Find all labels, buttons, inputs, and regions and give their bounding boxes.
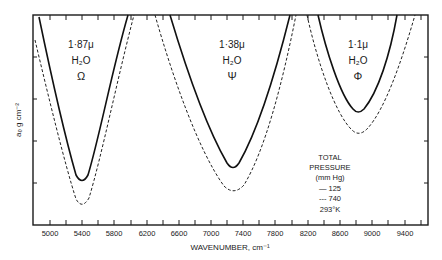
x-tick-label: 9400 [397, 229, 414, 238]
band-phi-wavelength: 1·1μ [348, 39, 368, 50]
absorption-chart: 1·87μ H₂O Ω 1·38μ H₂O Ψ 1·1μ H₂O Φ TOTAL… [0, 0, 442, 260]
legend-temperature: 293°K [320, 205, 341, 214]
band-omega-wavelength: 1·87μ [68, 39, 94, 50]
band-phi-symbol: Φ [354, 70, 363, 82]
legend: TOTAL PRESSURE (mm Hg) — 125 --- 740 293… [309, 153, 350, 214]
x-axis-title: WAVENUMBER, cm⁻¹ [190, 243, 269, 252]
legend-title-line1: TOTAL [318, 153, 341, 162]
x-tick-label: 8600 [332, 229, 349, 238]
band-omega-molecule: H₂O [72, 55, 91, 66]
x-tick-label: 7000 [203, 229, 220, 238]
x-tick-labels: 5000 5400 5800 6200 6600 7000 7400 7800 … [42, 229, 414, 238]
band-psi-125-curve [170, 15, 290, 168]
legend-solid-125: — 125 [319, 184, 341, 193]
y-axis-title: a₀ g cm⁻² [14, 103, 23, 137]
legend-title-line3: (mm Hg) [315, 173, 345, 182]
x-tick-label: 6200 [139, 229, 156, 238]
band-omega-symbol: Ω [77, 70, 85, 82]
band-psi-symbol: Ψ [227, 70, 236, 82]
x-tick-label: 8200 [300, 229, 317, 238]
band-phi-molecule: H₂O [349, 55, 368, 66]
x-tick-label: 9000 [364, 229, 381, 238]
x-axis-top-ticks [50, 15, 421, 20]
band-psi-molecule: H₂O [223, 55, 242, 66]
x-tick-label: 7800 [267, 229, 284, 238]
x-tick-label: 6600 [171, 229, 188, 238]
x-axis-ticks [50, 220, 421, 225]
band-psi-wavelength: 1·38μ [219, 39, 245, 50]
x-tick-label: 5800 [106, 229, 123, 238]
x-tick-label: 5400 [74, 229, 91, 238]
x-tick-label: 7400 [235, 229, 252, 238]
legend-title-line2: PRESSURE [309, 163, 350, 172]
legend-dashed-740: --- 740 [319, 194, 341, 203]
x-tick-label: 5000 [42, 229, 59, 238]
